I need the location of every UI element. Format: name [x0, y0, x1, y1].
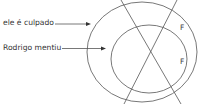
inner-circle — [111, 25, 187, 93]
arrow-to-outer-circle — [55, 22, 91, 26]
venn-diagram: F F — [0, 0, 198, 106]
outer-circle — [87, 2, 197, 102]
region-mark-f-outer: F — [180, 23, 184, 32]
region-mark-f-inner: F — [180, 57, 184, 66]
arrow-to-inner-circle — [62, 47, 106, 51]
